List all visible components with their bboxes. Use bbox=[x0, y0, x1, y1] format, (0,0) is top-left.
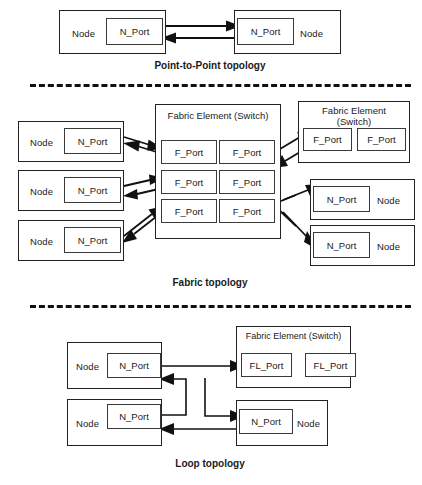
fabric-right-node-2-label: Node bbox=[377, 241, 400, 252]
ptp-right-n-port-label: N_Port bbox=[238, 19, 293, 44]
fabric-right-switch-title: Fabric Element (Switch) bbox=[299, 105, 409, 127]
ptp-left-n-port-label: N_Port bbox=[107, 19, 162, 44]
fabric-left-node-3-port-box[interactable]: N_Port bbox=[64, 227, 121, 253]
fabric-center-f-port-5-label: F_Port bbox=[162, 200, 216, 222]
caption-point-to-point: Point-to-Point topology bbox=[130, 60, 290, 71]
fabric-right-f-port-2-label: F_Port bbox=[358, 129, 405, 150]
separator-1 bbox=[30, 84, 411, 87]
separator-2 bbox=[30, 305, 411, 308]
fabric-right-node-1-port-box[interactable]: N_Port bbox=[313, 186, 370, 212]
caption-loop: Loop topology bbox=[155, 458, 265, 469]
fabric-center-f-port-2-label: F_Port bbox=[220, 141, 274, 163]
ptp-link-forward bbox=[165, 21, 241, 32]
loop-left-node-2-label: Node bbox=[76, 418, 99, 429]
loop-left-node-2-port-label: N_Port bbox=[108, 405, 160, 428]
fabric-center-f-port-1-label: F_Port bbox=[162, 141, 216, 163]
loop-fl-port-2[interactable]: FL_Port bbox=[305, 353, 356, 377]
fabric-center-f-port-2[interactable]: F_Port bbox=[219, 140, 275, 164]
loop-link-node1-to-flport bbox=[162, 360, 245, 372]
fabric-center-f-port-3[interactable]: F_Port bbox=[161, 170, 217, 194]
fabric-left-node-3-label: Node bbox=[30, 236, 53, 247]
fabric-right-node-2-port-label: N_Port bbox=[314, 233, 369, 257]
ptp-right-n-port-box[interactable]: N_Port bbox=[237, 18, 294, 45]
loop-left-node-2-port-box[interactable]: N_Port bbox=[107, 404, 161, 429]
fabric-right-node-2-port-box[interactable]: N_Port bbox=[313, 232, 370, 258]
fabric-left-node-2-port-box[interactable]: N_Port bbox=[64, 177, 121, 203]
fabric-left-node-2-port-label: N_Port bbox=[65, 178, 120, 202]
loop-right-node-label: Node bbox=[297, 418, 320, 429]
fabric-center-switch-title: Fabric Element (Switch) bbox=[156, 110, 280, 121]
fabric-left-node-2-label: Node bbox=[30, 186, 53, 197]
loop-fl-port-1-label: FL_Port bbox=[242, 354, 291, 376]
fabric-left-node-1-port-label: N_Port bbox=[65, 129, 120, 153]
ptp-link-reverse bbox=[161, 33, 237, 44]
fabric-center-f-port-4[interactable]: F_Port bbox=[219, 170, 275, 194]
loop-link-node2-to-node1 bbox=[159, 373, 186, 415]
ptp-left-node-label: Node bbox=[72, 28, 95, 39]
fabric-right-f-port-1[interactable]: F_Port bbox=[303, 128, 352, 151]
ptp-left-n-port-box[interactable]: N_Port bbox=[106, 18, 163, 45]
loop-left-node-1-label: Node bbox=[76, 361, 99, 372]
fabric-right-node-1-port-label: N_Port bbox=[314, 187, 369, 211]
loop-switch-title: Fabric Element (Switch) bbox=[237, 331, 350, 341]
loop-fl-port-1[interactable]: FL_Port bbox=[241, 353, 292, 377]
fabric-left-node-1-port-box[interactable]: N_Port bbox=[64, 128, 121, 154]
fabric-center-f-port-4-label: F_Port bbox=[220, 171, 274, 193]
ptp-right-node-label: Node bbox=[300, 28, 323, 39]
loop-left-node-1-port-box[interactable]: N_Port bbox=[107, 353, 161, 378]
fabric-center-f-port-3-label: F_Port bbox=[162, 171, 216, 193]
fabric-center-f-port-6-label: F_Port bbox=[220, 200, 274, 222]
caption-fabric: Fabric topology bbox=[150, 277, 270, 288]
loop-left-node-1-port-label: N_Port bbox=[108, 354, 160, 377]
fibre-channel-topology-diagram: Node N_Port Node N_Port Point-to-Point t… bbox=[0, 0, 422, 485]
fabric-right-node-1-label: Node bbox=[377, 195, 400, 206]
loop-fl-port-2-label: FL_Port bbox=[306, 354, 355, 376]
fabric-center-f-port-5[interactable]: F_Port bbox=[161, 199, 217, 223]
fabric-right-f-port-1-label: F_Port bbox=[304, 129, 351, 150]
fabric-left-node-3-port-label: N_Port bbox=[65, 228, 120, 252]
fabric-center-f-port-1[interactable]: F_Port bbox=[161, 140, 217, 164]
loop-right-node-port-label: N_Port bbox=[240, 410, 292, 433]
loop-right-node-port-box[interactable]: N_Port bbox=[239, 409, 293, 434]
fabric-left-node-1-label: Node bbox=[30, 137, 53, 148]
loop-link-nport-to-node2 bbox=[159, 423, 236, 435]
fabric-center-f-port-6[interactable]: F_Port bbox=[219, 199, 275, 223]
fabric-right-f-port-2[interactable]: F_Port bbox=[357, 128, 406, 151]
